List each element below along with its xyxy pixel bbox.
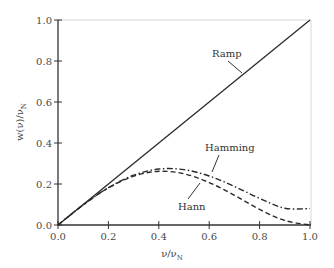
hamming-leader (212, 155, 219, 172)
y-tick-label: 0.0 (36, 220, 52, 231)
x-tick-label: 0.6 (201, 231, 217, 242)
hann-annotation: Hann (178, 201, 206, 212)
x-tick-label: 0.0 (50, 231, 66, 242)
x-tick-label: 0.8 (252, 231, 268, 242)
x-tick-label: 0.2 (100, 231, 116, 242)
x-tick-label: 1.0 (302, 231, 318, 242)
ramp-line (58, 20, 310, 225)
hann-leader (188, 183, 200, 199)
hann-line (58, 171, 310, 225)
y-tick-label: 0.4 (36, 138, 52, 149)
y-tick-label: 0.2 (36, 179, 52, 190)
x-tick-label: 0.4 (151, 231, 167, 242)
x-ticks: 0.00.20.40.60.81.0 (50, 221, 318, 242)
y-tick-label: 0.8 (36, 56, 52, 67)
x-axis-label: ν/νN (161, 248, 183, 262)
ramp-annotation: Ramp (212, 48, 242, 59)
ramp-leader (228, 61, 242, 73)
hamming-annotation: Hamming (205, 142, 255, 153)
y-tick-label: 1.0 (36, 15, 52, 26)
chart: 0.00.20.40.60.81.0 0.00.20.40.60.81.0 Ra… (0, 0, 334, 268)
hamming-line (58, 169, 310, 225)
y-axis-label: w(ν)/νN (14, 103, 28, 141)
y-tick-label: 0.6 (36, 97, 52, 108)
